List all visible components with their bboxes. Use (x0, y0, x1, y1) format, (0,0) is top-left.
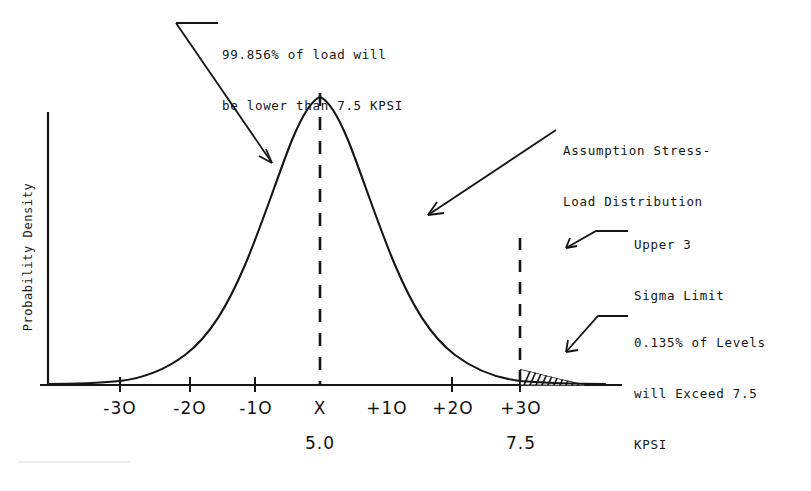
x-tick-label-mean: X (314, 398, 327, 418)
x-tick-label-minus-3-sigma: -3O (103, 398, 136, 418)
annotation-distribution-line-1: Assumption Stress- (563, 142, 711, 159)
x-tick-label-plus-3-sigma: +3O (500, 398, 541, 418)
leader-exceed (566, 316, 628, 352)
probability-density-figure: Probability Density 99.856% of load will… (0, 0, 811, 491)
x-value-label-upper-limit: 7.5 (506, 433, 536, 453)
annotation-load-percentile-line-1: 99.856% of load will (222, 46, 403, 63)
annotation-exceed-levels: 0.135% of Levels will Exceed 7.5 KPSI (634, 300, 766, 487)
leader-distribution (428, 130, 556, 215)
annotation-load-percentile-line-2: be lower than 7.5 KPSI (222, 97, 403, 114)
annotation-exceed-levels-line-3: KPSI (634, 436, 766, 453)
annotation-upper-sigma-limit-line-1: Upper 3 (634, 236, 724, 253)
x-tick-label-plus-2-sigma: +2O (432, 398, 473, 418)
x-tick-label-minus-2-sigma: -2O (173, 398, 206, 418)
annotation-exceed-levels-line-2: will Exceed 7.5 (634, 385, 766, 402)
x-tick-label-minus-1-sigma: -1O (239, 398, 272, 418)
x-tick-label-plus-1-sigma: +1O (366, 398, 407, 418)
annotation-exceed-levels-line-1: 0.135% of Levels (634, 334, 766, 351)
annotation-load-percentile: 99.856% of load will be lower than 7.5 K… (222, 12, 403, 148)
x-value-label-mean: 5.0 (305, 433, 335, 453)
y-axis-label: Probability Density (21, 167, 35, 347)
tail-hatch-fill (515, 360, 595, 392)
